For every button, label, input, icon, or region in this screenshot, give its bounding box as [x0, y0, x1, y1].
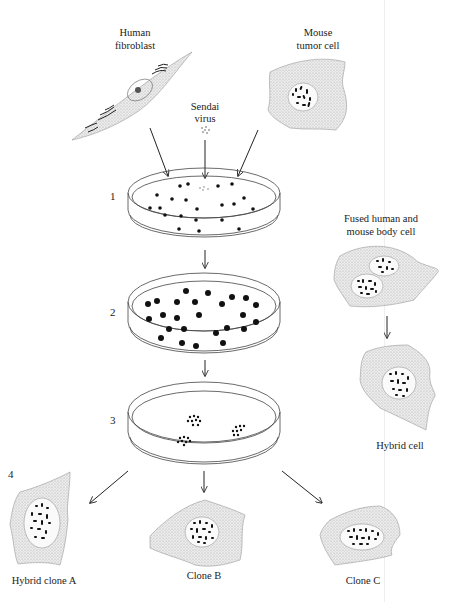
svg-text:Sendai: Sendai — [191, 101, 220, 112]
human-fibroblast-cell — [72, 52, 192, 140]
petri-dish-2: 2 — [110, 273, 280, 353]
hybrid-cell-label: Hybrid cell — [376, 440, 424, 451]
hybrid-cell — [360, 345, 435, 430]
clone-c-cell — [320, 506, 400, 565]
step-number-2: 2 — [110, 306, 116, 318]
sendai-virus-particles — [201, 126, 210, 134]
svg-text:Human: Human — [120, 27, 152, 38]
colony-3 — [232, 425, 245, 436]
svg-text:Mouse: Mouse — [304, 27, 333, 38]
mouse-tumor-cell — [268, 59, 347, 130]
colony-1 — [187, 415, 201, 426]
svg-text:mouse body cell: mouse body cell — [347, 226, 416, 237]
arrows-to-clones — [90, 471, 322, 503]
fused-human-mouse-cell — [334, 246, 438, 307]
diagram-canvas: Human fibroblast Mouse tumor cell Sendai… — [0, 0, 458, 602]
clone-b-cell — [150, 500, 245, 566]
clone-b-label: Clone B — [187, 570, 222, 581]
hybrid-clone-a-cell — [10, 472, 70, 565]
human-fibroblast-label: Human fibroblast — [115, 27, 155, 51]
sendai-virus-label: Sendai virus — [191, 101, 220, 124]
step-number-3: 3 — [110, 414, 116, 426]
hybrid-clone-a-label: Hybrid clone A — [12, 575, 77, 586]
svg-text:fibroblast: fibroblast — [115, 40, 155, 51]
step-number-4: 4 — [8, 468, 14, 480]
step-number-1: 1 — [110, 190, 116, 202]
petri-dish-1: 1 — [110, 168, 280, 237]
svg-text:virus: virus — [195, 113, 216, 124]
svg-text:tumor cell: tumor cell — [297, 40, 340, 51]
clone-c-label: Clone C — [346, 575, 381, 586]
svg-text:Fused human and: Fused human and — [344, 213, 419, 224]
mouse-tumor-cell-label: Mouse tumor cell — [297, 27, 340, 51]
fused-cell-label: Fused human and mouse body cell — [344, 213, 419, 237]
petri-dish-3: 3 — [110, 382, 280, 464]
arrows-into-dish-1 — [150, 128, 258, 178]
